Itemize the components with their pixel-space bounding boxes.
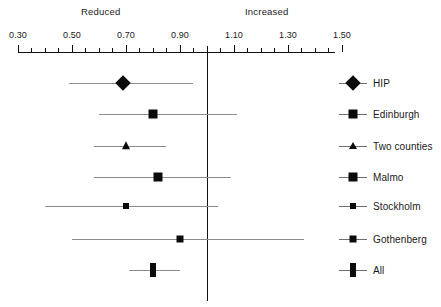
legend-key-marker [345,75,361,91]
axis-tick-minor [301,48,302,52]
confidence-interval-line [94,146,167,147]
point-estimate-marker [116,75,132,91]
legend-item-label: HIP [368,78,390,89]
legend-key-marker [349,110,358,119]
legend-item-label: All [368,265,384,276]
legend-marker-icon [338,232,368,246]
axis-baseline [18,52,335,53]
axis-tick-minor [247,48,248,52]
legend-item-two-counties[interactable]: Two counties [338,139,433,153]
axis-tick-minor [99,48,100,52]
confidence-interval-line [72,239,304,240]
axis-tick-minor [85,48,86,52]
legend-item-edinburgh[interactable]: Edinburgh [338,107,420,121]
axis-tick-major [234,45,235,52]
legend: HIPEdinburghTwo countiesMalmoStockholmGo… [338,0,441,307]
axis-tick-label: 0.90 [171,30,189,40]
legend-key-marker [350,263,356,277]
legend-item-label: Two counties [368,141,433,152]
axis-tick-minor [193,48,194,52]
forest-plot: Reduced Increased 0.300.500.700.901.101.… [0,0,441,307]
axis-tick-major [126,45,127,52]
legend-item-hip[interactable]: HIP [338,76,390,90]
legend-marker-icon [338,139,368,153]
legend-item-all[interactable]: All [338,263,384,277]
point-estimate-marker [123,203,129,209]
axis-tick-minor [58,48,59,52]
axis-tick-label: 0.30 [9,30,27,40]
legend-marker-icon [338,170,368,184]
axis-tick-label: 0.70 [117,30,135,40]
confidence-interval-line [69,83,193,84]
axis-tick-major [180,45,181,52]
legend-key-marker [350,236,357,243]
axis-tick-major [18,45,19,52]
legend-item-label: Gothenberg [368,234,427,245]
axis-tick-minor [45,48,46,52]
axis-tick-minor [112,48,113,52]
legend-item-gothenberg[interactable]: Gothenberg [338,232,427,246]
axis-tick-major [288,45,289,52]
confidence-interval-line [99,114,237,115]
legend-marker-icon [338,263,368,277]
legend-item-stockholm[interactable]: Stockholm [338,199,421,213]
legend-key-marker [350,203,356,209]
axis-tick-minor [153,48,154,52]
axis-tick-minor [220,48,221,52]
legend-item-malmo[interactable]: Malmo [338,170,404,184]
legend-key-marker [349,173,358,182]
point-estimate-marker [154,173,163,182]
axis-tick-minor [274,48,275,52]
axis-tick-minor [261,48,262,52]
point-estimate-marker [177,236,184,243]
legend-marker-icon [338,107,368,121]
axis-tick-major [72,45,73,52]
point-estimate-marker [150,263,156,277]
legend-item-label: Malmo [368,172,404,183]
axis-tick-label: 0.50 [63,30,81,40]
point-estimate-marker [149,110,158,119]
axis-tick-minor [315,48,316,52]
axis-tick-minor [328,48,329,52]
legend-item-label: Edinburgh [368,109,420,120]
legend-item-label: Stockholm [368,201,421,212]
axis-tick-label: 1.10 [225,30,243,40]
point-estimate-marker [122,141,130,149]
axis-tick-minor [31,48,32,52]
legend-marker-icon [338,76,368,90]
axis-tick-minor [139,48,140,52]
axis-tick-minor [166,48,167,52]
legend-marker-icon [338,199,368,213]
legend-key-marker [349,142,357,149]
axis-tick-label: 1.30 [279,30,297,40]
null-reference-line [207,46,208,301]
confidence-interval-line [45,206,218,207]
